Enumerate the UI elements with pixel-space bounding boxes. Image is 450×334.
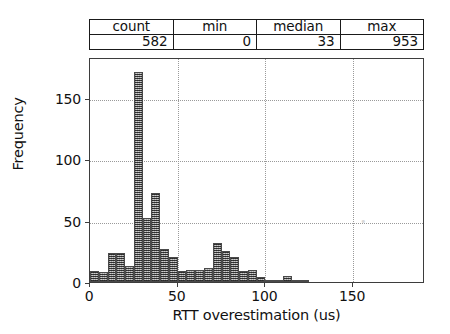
histogram-figure: count min median max 582 0 33 953 050100… [0,0,450,334]
histogram-bar [300,280,309,282]
histogram-bar [151,193,160,282]
header-min: min [173,20,257,35]
histogram-bar [108,253,117,283]
histogram-bar [90,271,99,282]
y-tick-mark [85,160,89,161]
histogram-bar [143,218,152,282]
header-max: max [340,20,424,35]
value-count: 582 [90,35,174,50]
histogram-bars [90,59,423,282]
y-tick-label: 0 [21,275,81,291]
histogram-bar [222,251,231,282]
histogram-bar [178,271,187,282]
value-min: 0 [173,35,257,50]
histogram-bar [239,271,248,282]
histogram-bar [125,266,134,282]
x-tick-mark [89,283,90,287]
histogram-bar [204,268,213,282]
header-median: median [257,20,341,35]
y-tick-label: 50 [21,214,81,230]
histogram-bar [248,270,257,282]
x-tick-mark [264,283,265,287]
value-max: 953 [340,35,424,50]
y-axis-label: Frequency [10,54,26,214]
x-axis-label: RTT overestimation (us) [89,307,424,323]
y-tick-label: 150 [21,91,81,107]
histogram-bar [213,243,222,282]
histogram-bar [265,280,274,282]
y-tick-mark [85,99,89,100]
header-count: count [90,20,174,35]
y-tick-label: 100 [21,152,81,168]
x-tick-label: 100 [234,288,294,304]
histogram-bar [186,270,195,282]
x-tick-label: 50 [147,288,207,304]
x-tick-mark [352,283,353,287]
histogram-bar [134,72,143,282]
x-tick-mark [177,283,178,287]
histogram-bar [116,253,125,283]
value-median: 33 [257,35,341,50]
histogram-bar [99,272,108,282]
y-tick-mark [85,222,89,223]
histogram-bar [160,249,169,282]
histogram-bar [195,270,204,282]
histogram-bar [292,280,301,282]
histogram-bar [169,257,178,282]
histogram-bar [230,257,239,282]
y-tick-mark [85,283,89,284]
plot-area [89,58,424,283]
table-header-row: count min median max [90,20,424,35]
histogram-bar [283,276,292,282]
histogram-bar [274,280,283,282]
summary-stats-table: count min median max 582 0 33 953 [89,19,424,50]
table-value-row: 582 0 33 953 [90,35,424,50]
x-tick-label: 150 [322,288,382,304]
histogram-bar [257,277,266,282]
